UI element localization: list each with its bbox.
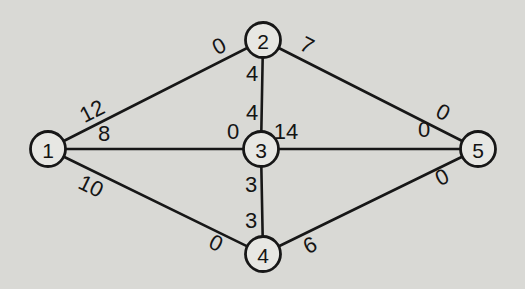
node-5-label: 5 bbox=[472, 139, 484, 162]
edge-1-3-value-3: 0 bbox=[227, 119, 239, 144]
node-4-label: 4 bbox=[257, 244, 269, 267]
edge-1-2-value-2: 0 bbox=[208, 32, 230, 60]
node-1-label: 1 bbox=[42, 139, 54, 162]
edge-4-5-value-4: 6 bbox=[299, 231, 321, 259]
node-2-label: 2 bbox=[257, 30, 269, 53]
edge-3-4-value-3: 3 bbox=[245, 172, 257, 197]
edge-2-3-value-3: 4 bbox=[246, 100, 258, 125]
node-3-label: 3 bbox=[255, 139, 267, 162]
edge-1-4-value-4: 0 bbox=[205, 229, 227, 257]
edge-4-5-value-5: 0 bbox=[431, 163, 453, 191]
edge-2-5-value-5: 0 bbox=[432, 98, 454, 126]
edge-3-4-value-4: 3 bbox=[245, 208, 257, 233]
scanned-figure-page: 120708014010060443312345 bbox=[0, 0, 525, 289]
edge-4-5 bbox=[263, 149, 478, 254]
edge-2-5-value-2: 7 bbox=[296, 31, 318, 59]
edge-2-3-value-2: 4 bbox=[246, 61, 258, 86]
edge-1-4 bbox=[48, 149, 263, 254]
edge-1-3-value-1: 8 bbox=[98, 121, 110, 146]
graph-svg: 120708014010060443312345 bbox=[0, 0, 525, 289]
edge-3-5-value-5: 0 bbox=[418, 117, 430, 142]
